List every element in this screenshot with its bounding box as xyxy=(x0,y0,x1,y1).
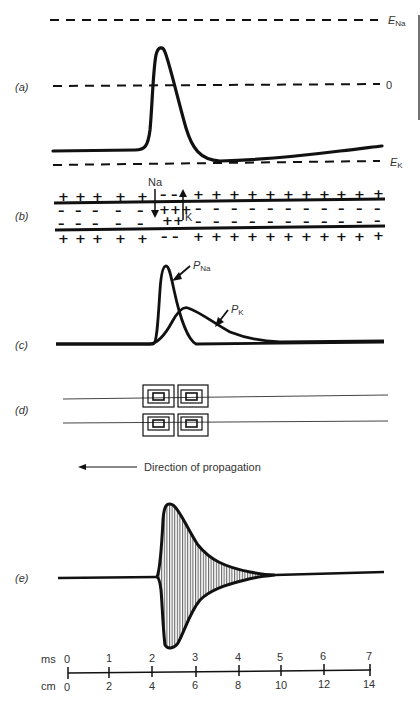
svg-text:7: 7 xyxy=(366,650,372,662)
panel-a: (a) ENa 0 EK xyxy=(15,14,419,170)
svg-text:+: + xyxy=(283,229,294,244)
e-k-label: EK xyxy=(390,156,403,170)
svg-text:+: + xyxy=(229,187,240,202)
svg-text:5: 5 xyxy=(277,651,283,663)
svg-text:–: – xyxy=(231,214,238,229)
axon-line-bottom xyxy=(63,421,388,423)
panel-e-label: (e) xyxy=(15,572,29,584)
current-loops-bottom xyxy=(143,414,208,436)
panel-c-label: (c) xyxy=(15,339,28,351)
svg-text:+: + xyxy=(58,231,69,246)
svg-text:0: 0 xyxy=(64,653,70,665)
e-na-label: ENa xyxy=(388,14,406,28)
svg-text:–: – xyxy=(356,214,363,229)
svg-text:+: + xyxy=(211,187,222,202)
svg-text:+: + xyxy=(301,229,312,244)
ms-tick-labels: 0 1 2 3 4 5 6 7 xyxy=(64,650,372,665)
svg-text:+: + xyxy=(193,187,204,202)
svg-text:4: 4 xyxy=(149,680,155,692)
svg-text:+: + xyxy=(115,231,126,246)
svg-text:–: – xyxy=(303,214,310,229)
zero-label: 0 xyxy=(386,79,392,91)
svg-text:+: + xyxy=(265,187,276,202)
svg-text:+: + xyxy=(75,231,86,246)
svg-text:+: + xyxy=(115,189,126,204)
svg-text:+: + xyxy=(373,228,384,243)
svg-text:+: + xyxy=(137,189,148,204)
ms-unit-label: ms xyxy=(41,653,56,665)
svg-text:–: – xyxy=(75,216,82,231)
svg-text:+: + xyxy=(373,186,384,201)
svg-text:–: – xyxy=(115,216,122,231)
svg-text:+: + xyxy=(75,189,86,204)
axon-line-top xyxy=(63,395,388,399)
scale-axis xyxy=(68,670,371,673)
svg-text:+: + xyxy=(193,229,204,244)
svg-text:+: + xyxy=(319,187,330,202)
svg-text:2: 2 xyxy=(149,652,155,664)
svg-text:0: 0 xyxy=(64,681,70,693)
svg-text:4: 4 xyxy=(235,651,241,663)
panel-b-label: (b) xyxy=(15,210,29,222)
svg-text:–: – xyxy=(374,213,381,228)
svg-text:–: – xyxy=(249,214,256,229)
svg-text:10: 10 xyxy=(275,679,287,691)
baseline-right xyxy=(275,572,384,575)
svg-text:+: + xyxy=(301,187,312,202)
svg-text:++: ++ xyxy=(162,213,184,228)
pna-label: PNa xyxy=(193,259,211,273)
svg-text:–: – xyxy=(213,214,220,229)
local-current-envelope xyxy=(157,504,275,648)
svg-text:– –: – – xyxy=(161,229,179,244)
svg-text:–: – xyxy=(338,214,345,229)
panel-e: (e) xyxy=(15,504,384,648)
svg-text:1: 1 xyxy=(106,652,112,664)
svg-text:2: 2 xyxy=(106,680,112,692)
panel-d-label: (d) xyxy=(15,404,29,416)
svg-text:3: 3 xyxy=(192,651,198,663)
svg-text:–: – xyxy=(195,214,202,229)
panel-a-label: (a) xyxy=(15,81,29,93)
svg-text:+: + xyxy=(283,187,294,202)
baseline-left xyxy=(58,577,157,578)
svg-text:+: + xyxy=(247,187,258,202)
direction-label: Direction of propagation xyxy=(144,461,261,473)
svg-text:12: 12 xyxy=(318,678,330,690)
svg-text:14: 14 xyxy=(363,678,375,690)
pk-label: PK xyxy=(231,303,244,317)
svg-text:– –: – – xyxy=(160,187,178,202)
svg-text:+: + xyxy=(137,231,148,246)
svg-text:+: + xyxy=(265,229,276,244)
svg-text:+: + xyxy=(354,187,365,202)
na-arrow-head xyxy=(151,210,159,218)
panel-b: (b) Na K +++ ++ – – +++ +++ +++ ++ ––– –… xyxy=(15,176,385,246)
cm-tick-labels: 0 2 4 6 8 10 12 14 xyxy=(64,678,375,693)
svg-text:+: + xyxy=(58,189,69,204)
svg-text:+: + xyxy=(336,229,347,244)
svg-text:6: 6 xyxy=(320,650,326,662)
zero-line xyxy=(53,84,380,86)
svg-text:8: 8 xyxy=(235,679,241,691)
svg-text:–: – xyxy=(285,214,292,229)
svg-text:+: + xyxy=(336,187,347,202)
svg-text:–: – xyxy=(137,216,144,231)
panel-c: (c) PNa PK xyxy=(15,259,384,351)
action-potential-figure: (a) ENa 0 EK (b) Na K +++ ++ – – +++ xyxy=(0,0,420,710)
action-potential-curve xyxy=(53,48,382,161)
svg-text:–: – xyxy=(267,214,274,229)
pk-curve xyxy=(56,308,384,344)
current-loops-top xyxy=(143,385,208,407)
svg-text:–: – xyxy=(321,214,328,229)
svg-text:+: + xyxy=(247,229,258,244)
svg-text:+: + xyxy=(92,231,103,246)
svg-text:+: + xyxy=(319,229,330,244)
cm-unit-label: cm xyxy=(41,680,56,692)
pna-curve xyxy=(56,266,384,344)
k-arrow-head xyxy=(179,189,187,197)
svg-text:+: + xyxy=(211,229,222,244)
svg-text:–: – xyxy=(58,216,65,231)
direction-arrow-head xyxy=(78,464,86,470)
time-distance-scale: ms cm 0 1 2 3 4 5 6 7 0 2 4 6 8 xyxy=(41,650,375,693)
svg-text:+: + xyxy=(92,189,103,204)
svg-text:+: + xyxy=(354,229,365,244)
